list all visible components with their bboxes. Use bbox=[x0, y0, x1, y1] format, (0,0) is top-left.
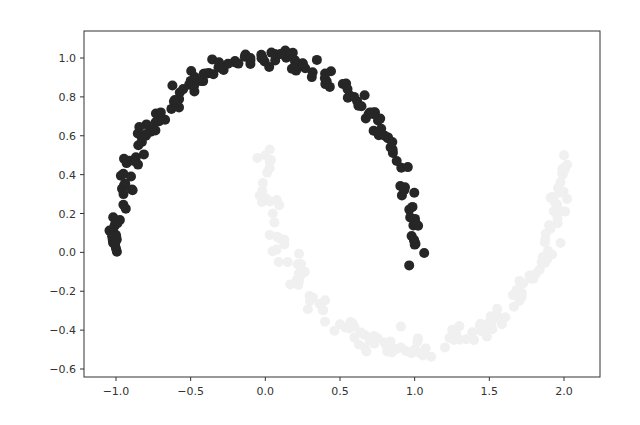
data-point bbox=[525, 274, 535, 284]
data-point bbox=[107, 231, 117, 241]
data-point bbox=[320, 69, 330, 79]
data-point bbox=[320, 317, 330, 327]
data-point bbox=[296, 259, 306, 269]
data-point bbox=[555, 178, 565, 188]
data-point bbox=[156, 107, 166, 117]
y-tick-label: −0.4 bbox=[49, 324, 76, 337]
data-point bbox=[186, 66, 196, 76]
data-point bbox=[365, 335, 375, 345]
data-point bbox=[559, 150, 569, 160]
data-point bbox=[264, 62, 274, 72]
data-point bbox=[353, 101, 363, 111]
data-point bbox=[294, 249, 304, 259]
data-point bbox=[245, 53, 255, 63]
data-point bbox=[343, 84, 353, 94]
data-point bbox=[409, 188, 419, 198]
data-point bbox=[170, 95, 180, 105]
data-point bbox=[418, 351, 428, 361]
data-point bbox=[440, 342, 450, 352]
data-point bbox=[560, 164, 570, 174]
y-tick-label: 0.2 bbox=[59, 208, 77, 221]
x-tick-label: −1.0 bbox=[103, 385, 130, 398]
data-point bbox=[380, 131, 390, 141]
scatter-chart: −1.0−0.50.00.51.01.52.0 1.00.80.60.40.20… bbox=[0, 0, 640, 425]
data-point bbox=[305, 296, 315, 306]
y-tick-label: 0.4 bbox=[59, 169, 77, 182]
data-point bbox=[119, 189, 129, 199]
data-point bbox=[369, 126, 379, 136]
data-point bbox=[335, 319, 345, 329]
data-point bbox=[312, 55, 322, 65]
data-point bbox=[349, 92, 359, 102]
data-point bbox=[298, 59, 308, 69]
data-point bbox=[294, 269, 304, 279]
data-point bbox=[404, 260, 414, 270]
x-tick-label: 2.0 bbox=[555, 385, 573, 398]
y-tick-label: 0.0 bbox=[59, 246, 77, 259]
data-point bbox=[492, 304, 502, 314]
data-point bbox=[514, 296, 524, 306]
data-point bbox=[500, 312, 510, 322]
data-point bbox=[141, 131, 151, 141]
data-point bbox=[345, 323, 355, 333]
y-tick-label: 0.6 bbox=[59, 130, 77, 143]
data-point bbox=[257, 53, 267, 63]
data-point bbox=[268, 246, 278, 256]
data-point bbox=[261, 195, 271, 205]
data-point bbox=[515, 276, 525, 286]
data-point bbox=[405, 212, 415, 222]
data-point bbox=[275, 234, 285, 244]
x-tick-label: −0.5 bbox=[177, 385, 204, 398]
data-point bbox=[410, 240, 420, 250]
data-point bbox=[320, 295, 330, 305]
data-point bbox=[283, 257, 293, 267]
data-point bbox=[129, 156, 139, 166]
data-point bbox=[201, 69, 211, 79]
data-point bbox=[128, 185, 138, 195]
data-point bbox=[419, 248, 429, 258]
data-point bbox=[556, 238, 566, 248]
x-tick-label: 1.5 bbox=[481, 385, 499, 398]
data-point bbox=[391, 344, 401, 354]
data-point bbox=[392, 156, 402, 166]
data-point bbox=[268, 209, 278, 219]
data-point bbox=[403, 162, 413, 172]
data-point bbox=[454, 321, 464, 331]
y-tick-label: 1.0 bbox=[59, 52, 77, 65]
y-tick-label: −0.6 bbox=[49, 363, 76, 376]
data-point bbox=[118, 200, 128, 210]
data-point bbox=[361, 346, 371, 356]
data-point bbox=[258, 178, 268, 188]
data-point bbox=[546, 224, 556, 234]
data-point bbox=[408, 202, 418, 212]
data-point bbox=[552, 209, 562, 219]
data-point bbox=[113, 218, 123, 228]
data-point bbox=[375, 114, 385, 124]
data-point bbox=[484, 319, 494, 329]
y-tick-label: −0.2 bbox=[49, 285, 76, 298]
data-point bbox=[275, 49, 285, 59]
data-point bbox=[399, 185, 409, 195]
data-point bbox=[287, 64, 297, 74]
data-point bbox=[396, 322, 406, 332]
data-point bbox=[178, 84, 188, 94]
data-point bbox=[111, 244, 121, 254]
data-point bbox=[167, 81, 177, 91]
data-point bbox=[214, 62, 224, 72]
data-point bbox=[555, 188, 565, 198]
data-point bbox=[455, 335, 465, 345]
data-point bbox=[223, 59, 233, 69]
data-point bbox=[260, 150, 270, 160]
data-point bbox=[365, 107, 375, 117]
data-point bbox=[269, 217, 279, 227]
data-point bbox=[537, 257, 547, 267]
y-tick-label: 0.8 bbox=[59, 91, 77, 104]
data-point bbox=[116, 171, 126, 181]
data-point bbox=[233, 59, 243, 69]
data-point bbox=[307, 72, 317, 82]
x-tick-label: 0.5 bbox=[331, 385, 349, 398]
data-point bbox=[285, 279, 295, 289]
data-point bbox=[274, 257, 284, 267]
data-point bbox=[318, 305, 328, 315]
data-point bbox=[354, 340, 364, 350]
